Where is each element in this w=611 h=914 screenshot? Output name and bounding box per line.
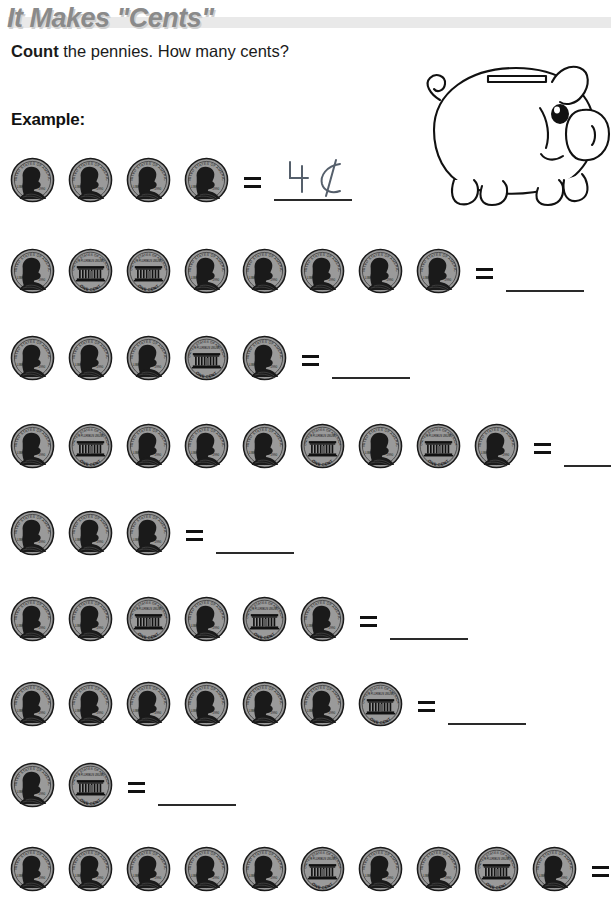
penny-heads-icon: UNITED STATES OF AMERICA LIBERTY 1990 [416, 248, 461, 294]
svg-text:E PLURIBUS UNUM: E PLURIBUS UNUM [310, 857, 334, 861]
answer-line [390, 638, 468, 640]
svg-text:LIBERTY: LIBERTY [307, 624, 321, 628]
penny-heads-icon: UNITED STATES OF AMERICA LIBERTY 1990 [10, 681, 55, 727]
svg-text:LIBERTY: LIBERTY [539, 874, 553, 878]
problem-row: UNITED STATES OF AMERICA LIBERTY 1990 UN… [10, 243, 584, 299]
svg-text:LIBERTY: LIBERTY [17, 451, 31, 455]
svg-text:E PLURIBUS UNUM: E PLURIBUS UNUM [194, 346, 218, 350]
svg-text:LIBERTY: LIBERTY [191, 624, 205, 628]
answer-blank[interactable] [326, 335, 410, 381]
penny-heads-icon: UNITED STATES OF AMERICA LIBERTY 1990 [242, 846, 287, 892]
svg-text:LIBERTY: LIBERTY [17, 790, 31, 794]
svg-text:LIBERTY: LIBERTY [249, 363, 263, 367]
svg-text:LIBERTY: LIBERTY [17, 538, 31, 542]
penny-heads-icon: UNITED STATES OF AMERICA LIBERTY 1990 [242, 248, 287, 294]
page-title: It Makes "Cents" [7, 3, 214, 34]
svg-text:1990: 1990 [386, 876, 393, 880]
answer-line [564, 465, 611, 467]
problem-row: UNITED STATES OF AMERICA LIBERTY 1990 UN… [10, 676, 526, 732]
svg-text:LIBERTY: LIBERTY [365, 874, 379, 878]
svg-text:1990: 1990 [38, 278, 45, 282]
svg-text:1990: 1990 [38, 792, 45, 796]
penny-heads-icon: UNITED STATES OF AMERICA LIBERTY 1990 [358, 423, 403, 469]
svg-text:E PLURIBUS UNUM: E PLURIBUS UNUM [368, 692, 392, 696]
equals-sign [532, 423, 554, 469]
answer-line [506, 290, 584, 292]
problem-row: UNITED STATES OF AMERICA LIBERTY 1990 UN… [10, 841, 611, 897]
svg-text:1990: 1990 [270, 278, 277, 282]
penny-tails-icon: UNITED STATES OF AMERICA E PLURIBUS UNUM… [242, 596, 287, 642]
penny-heads-icon: UNITED STATES OF AMERICA LIBERTY 1990 [242, 335, 287, 381]
equals-sign [126, 762, 148, 808]
penny-heads-icon: UNITED STATES OF AMERICA LIBERTY 1990 [126, 681, 171, 727]
svg-text:1990: 1990 [212, 711, 219, 715]
svg-text:E PLURIBUS UNUM: E PLURIBUS UNUM [78, 259, 102, 263]
svg-text:LIBERTY: LIBERTY [191, 185, 205, 189]
problem-row: UNITED STATES OF AMERICA LIBERTY 1990 UN… [10, 757, 236, 813]
answer-blank[interactable] [152, 762, 236, 808]
worksheet-header: It Makes "Cents" [0, 3, 611, 33]
svg-text:1990: 1990 [38, 453, 45, 457]
answer-line [158, 804, 236, 806]
instruction-remainder: the pennies. How many cents? [59, 42, 289, 60]
penny-heads-icon: UNITED STATES OF AMERICA LIBERTY 1990 [416, 846, 461, 892]
svg-text:E PLURIBUS UNUM: E PLURIBUS UNUM [78, 773, 102, 777]
penny-heads-icon: UNITED STATES OF AMERICA LIBERTY 1990 [242, 681, 287, 727]
svg-text:1990: 1990 [38, 626, 45, 630]
svg-text:LIBERTY: LIBERTY [191, 451, 205, 455]
problem-row: UNITED STATES OF AMERICA LIBERTY 1990 UN… [10, 330, 410, 386]
svg-text:1990: 1990 [386, 453, 393, 457]
penny-heads-icon: UNITED STATES OF AMERICA LIBERTY 1990 [10, 846, 55, 892]
answer-blank[interactable] [442, 681, 526, 727]
example-label: Example: [11, 110, 85, 130]
svg-text:1990: 1990 [328, 626, 335, 630]
problem-row: UNITED STATES OF AMERICA LIBERTY 1990 UN… [10, 591, 468, 647]
penny-heads-icon: UNITED STATES OF AMERICA LIBERTY 1990 [126, 423, 171, 469]
svg-text:1990: 1990 [212, 453, 219, 457]
svg-text:LIBERTY: LIBERTY [133, 451, 147, 455]
answer-blank[interactable] [210, 510, 294, 556]
svg-text:1990: 1990 [154, 365, 161, 369]
svg-text:LIBERTY: LIBERTY [191, 709, 205, 713]
penny-heads-icon: UNITED STATES OF AMERICA LIBERTY 1990 [126, 846, 171, 892]
penny-heads-icon: UNITED STATES OF AMERICA LIBERTY 1990 [68, 846, 113, 892]
equals-sign [300, 335, 322, 381]
svg-text:LIBERTY: LIBERTY [133, 709, 147, 713]
svg-text:LIBERTY: LIBERTY [423, 874, 437, 878]
svg-text:1990: 1990 [96, 540, 103, 544]
penny-tails-icon: UNITED STATES OF AMERICA E PLURIBUS UNUM… [184, 335, 229, 381]
svg-text:LIBERTY: LIBERTY [249, 276, 263, 280]
svg-text:LIBERTY: LIBERTY [17, 874, 31, 878]
penny-heads-icon: UNITED STATES OF AMERICA LIBERTY 1990 [184, 248, 229, 294]
penny-heads-icon: UNITED STATES OF AMERICA LIBERTY 1990 [184, 681, 229, 727]
penny-tails-icon: UNITED STATES OF AMERICA E PLURIBUS UNUM… [358, 681, 403, 727]
svg-text:LIBERTY: LIBERTY [191, 874, 205, 878]
equals-sign [184, 510, 206, 556]
svg-text:1990: 1990 [38, 187, 45, 191]
penny-heads-icon: UNITED STATES OF AMERICA LIBERTY 1990 [126, 157, 171, 203]
answer-blank[interactable] [558, 423, 611, 469]
svg-text:LIBERTY: LIBERTY [17, 185, 31, 189]
answer-line [216, 552, 294, 554]
svg-text:E PLURIBUS UNUM: E PLURIBUS UNUM [78, 434, 102, 438]
answer-blank[interactable] [268, 157, 352, 203]
penny-heads-icon: UNITED STATES OF AMERICA LIBERTY 1990 [184, 157, 229, 203]
svg-text:E PLURIBUS UNUM: E PLURIBUS UNUM [426, 434, 450, 438]
svg-text:1990: 1990 [212, 626, 219, 630]
svg-text:LIBERTY: LIBERTY [17, 363, 31, 367]
svg-text:E PLURIBUS UNUM: E PLURIBUS UNUM [310, 434, 334, 438]
svg-text:1990: 1990 [38, 876, 45, 880]
answer-blank[interactable] [384, 596, 468, 642]
penny-heads-icon: UNITED STATES OF AMERICA LIBERTY 1990 [68, 157, 113, 203]
svg-text:LIBERTY: LIBERTY [133, 874, 147, 878]
penny-tails-icon: UNITED STATES OF AMERICA E PLURIBUS UNUM… [68, 248, 113, 294]
answer-blank[interactable] [500, 248, 584, 294]
piggy-bank-illustration [412, 52, 611, 207]
svg-text:1990: 1990 [154, 540, 161, 544]
penny-heads-icon: UNITED STATES OF AMERICA LIBERTY 1990 [184, 596, 229, 642]
svg-text:E PLURIBUS UNUM: E PLURIBUS UNUM [136, 259, 160, 263]
svg-text:1990: 1990 [154, 453, 161, 457]
problem-row: UNITED STATES OF AMERICA LIBERTY 1990 UN… [10, 505, 294, 561]
svg-text:LIBERTY: LIBERTY [17, 276, 31, 280]
svg-text:1990: 1990 [38, 540, 45, 544]
